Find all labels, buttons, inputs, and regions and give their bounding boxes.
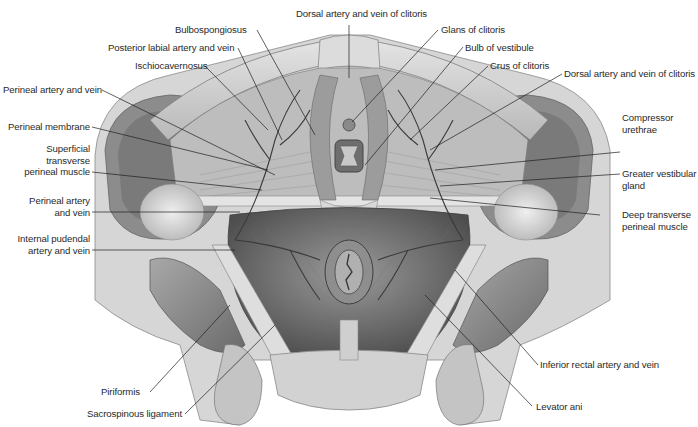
label-perineal-membrane: Perineal membrane (8, 121, 90, 133)
label-perineal-artery-mid: Perineal artery and vein (29, 195, 90, 218)
label-levator-ani: Levator ani (536, 401, 582, 413)
label-perineal-artery-top: Perineal artery and vein (3, 84, 102, 96)
label-greater-vestibular: Greater vestibular gland (622, 168, 696, 191)
label-compressor-urethrae: Compressor urethrae (622, 112, 673, 135)
label-sacrospinous: Sacrospinous ligament (87, 408, 182, 420)
label-internal-pudendal: Internal pudendal artery and vein (18, 233, 90, 256)
label-bulbospongiosus: Bulbospongiosus (175, 24, 247, 36)
cropped-caption (0, 0, 698, 3)
label-glans: Glans of clitoris (441, 24, 505, 36)
label-piriformis: Piriformis (101, 386, 140, 398)
label-bulb-vestibule: Bulb of vestibule (465, 42, 534, 54)
label-crus: Crus of clitoris (490, 60, 549, 72)
label-dorsal-artery-top: Dorsal artery and vein of clitoris (296, 8, 427, 20)
label-ischiocavernosus: Ischiocavernosus (135, 60, 208, 72)
label-superficial-transverse: Superficial transverse perineal muscle (24, 143, 90, 178)
label-deep-transverse: Deep transverse perineal muscle (622, 209, 691, 232)
label-dorsal-artery-right: Dorsal artery and vein of clitoris (564, 68, 695, 80)
label-posterior-labial: Posterior labial artery and vein (108, 42, 234, 54)
label-inferior-rectal: Inferior rectal artery and vein (540, 359, 659, 371)
